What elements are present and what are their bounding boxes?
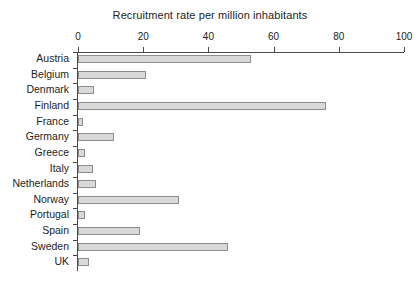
category-label: France [36, 114, 69, 128]
bar [78, 258, 89, 266]
bar-row: Italy [78, 162, 404, 178]
category-label: UK [54, 254, 69, 268]
bar-row: Belgium [78, 68, 404, 84]
bar-row: Germany [78, 130, 404, 146]
bar-row: Greece [78, 146, 404, 162]
bar-row: Portugal [78, 208, 404, 224]
bar [78, 55, 251, 63]
category-label: Netherlands [12, 176, 69, 190]
bar [78, 149, 85, 157]
category-label: Portugal [30, 207, 69, 221]
category-label: Austria [36, 51, 69, 65]
bar [78, 71, 146, 79]
category-label: Norway [33, 192, 69, 206]
chart-title: Recruitment rate per million inhabitants [0, 9, 420, 21]
bar-row: Norway [78, 193, 404, 209]
bar-row: UK [78, 255, 404, 271]
x-tick [404, 47, 405, 52]
category-label: Belgium [31, 67, 69, 81]
chart-figure: Recruitment rate per million inhabitants… [0, 0, 420, 288]
bar [78, 102, 326, 110]
bar-row: Austria [78, 52, 404, 68]
plot-area: 020406080100 AustriaBelgiumDenmarkFinlan… [78, 52, 404, 271]
category-label: Finland [35, 98, 69, 112]
category-label: Sweden [31, 239, 69, 253]
category-label: Spain [42, 223, 69, 237]
bar [78, 211, 85, 219]
bar [78, 180, 96, 188]
bar [78, 196, 179, 204]
bar-row: Spain [78, 224, 404, 240]
category-label: Greece [35, 145, 69, 159]
x-tick-label: 80 [333, 31, 344, 42]
bar [78, 86, 94, 94]
bar-row: Finland [78, 99, 404, 115]
category-label: Denmark [26, 82, 69, 96]
x-tick-label: 100 [396, 31, 413, 42]
category-label: Germany [26, 129, 69, 143]
bar [78, 165, 93, 173]
bar-row: France [78, 115, 404, 131]
bar-row: Denmark [78, 83, 404, 99]
bar-row: Netherlands [78, 177, 404, 193]
bar [78, 118, 83, 126]
bar [78, 227, 140, 235]
x-tick-label: 60 [268, 31, 279, 42]
bar-row: Sweden [78, 240, 404, 256]
x-tick-label: 20 [138, 31, 149, 42]
x-tick-label: 40 [203, 31, 214, 42]
category-label: Italy [50, 161, 69, 175]
x-tick-label: 0 [75, 31, 81, 42]
bar [78, 243, 228, 251]
bar [78, 133, 114, 141]
